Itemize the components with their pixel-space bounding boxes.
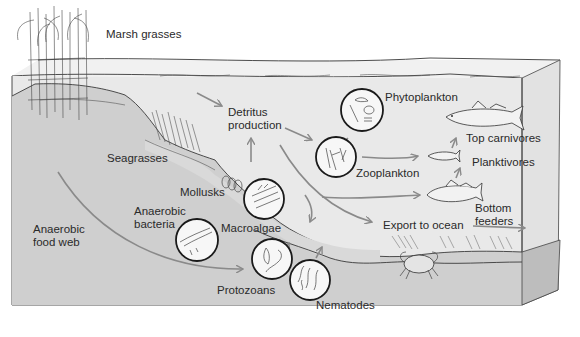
label-top-carnivores: Top carnivores [466,132,541,144]
label-phytoplankton: Phytoplankton [385,91,458,103]
label-seagrasses: Seagrasses [107,152,168,164]
estuary-food-web-diagram: Marsh grasses Seagrasses Detritus produc… [0,0,580,337]
macroalgae-circle-icon [244,179,284,219]
nematode-circle-icon [290,260,330,300]
label-bottom-feeders-line2: feeders [475,215,514,227]
label-mollusks: Mollusks [180,186,225,198]
label-anaerobic-food-web-line2: food web [33,236,80,248]
zooplankton-circle-icon [316,137,356,177]
label-zooplankton: Zooplankton [356,167,419,179]
label-macroalgae: Macroalgae [221,222,281,234]
label-anaerobic-bacteria-line2: bacteria [134,218,176,230]
phytoplankton-circle-icon [341,89,383,131]
label-planktivores: Planktivores [472,156,535,168]
protozoa-circle-icon [252,239,292,279]
bacteria-circle-icon [176,219,218,261]
label-detritus-line2: production [228,119,282,131]
label-anaerobic-bacteria-line1: Anaerobic [134,205,186,217]
label-anaerobic-food-web-line1: Anaerobic [33,223,85,235]
label-protozoans: Protozoans [217,284,275,296]
label-nematodes: Nematodes [316,299,375,311]
label-export-to-ocean: Export to ocean [383,219,464,231]
label-bottom-feeders-line1: Bottom [475,202,511,214]
label-detritus-line1: Detritus [228,106,268,118]
label-marsh-grasses: Marsh grasses [106,28,182,40]
